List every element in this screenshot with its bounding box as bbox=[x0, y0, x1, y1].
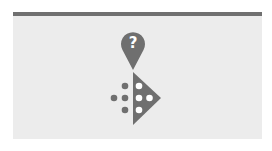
question-pin-icon: ? bbox=[121, 32, 145, 70]
placeholder-illustration: ? bbox=[0, 0, 272, 151]
question-mark-glyph: ? bbox=[129, 34, 138, 52]
triangle-dots-icon bbox=[111, 72, 161, 125]
